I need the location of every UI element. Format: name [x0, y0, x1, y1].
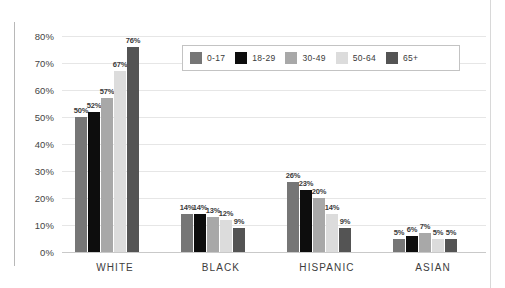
bar-asian-65+[interactable]	[445, 239, 457, 253]
bar-hispanic-30-49[interactable]	[313, 198, 325, 252]
bar-black-0-17[interactable]	[181, 214, 193, 252]
bar-slot: 67%	[114, 36, 126, 252]
bar-group-bars: 50%52%57%67%76%	[75, 36, 140, 252]
x-axis-label-white: WHITE	[62, 262, 168, 273]
bar-hispanic-50-64[interactable]	[326, 214, 338, 252]
y-axis-tick-label: 20%	[0, 193, 54, 204]
bar-value-label: 7%	[420, 222, 431, 231]
legend-label: 0-17	[207, 53, 225, 63]
bar-black-18-29[interactable]	[194, 214, 206, 252]
legend-swatch-icon	[235, 52, 247, 64]
x-axis-label-asian: ASIAN	[380, 262, 486, 273]
bar-slot: 57%	[101, 36, 113, 252]
bar-white-30-49[interactable]	[101, 98, 113, 252]
bar-white-18-29[interactable]	[88, 112, 100, 252]
bar-value-label: 67%	[113, 60, 128, 69]
bar-asian-0-17[interactable]	[393, 239, 405, 253]
bar-group-white: 50%52%57%67%76%	[75, 36, 139, 252]
bar-value-label: 20%	[312, 187, 327, 196]
bar-black-50-64[interactable]	[220, 220, 232, 252]
bar-value-label: 9%	[340, 217, 351, 226]
bar-white-50-64[interactable]	[114, 71, 126, 252]
bar-value-label: 76%	[126, 36, 141, 45]
bar-slot: 76%	[127, 36, 139, 252]
y-axis-tick-label: 40%	[0, 139, 54, 150]
legend-item-18-29[interactable]: 18-29	[235, 52, 275, 64]
legend-swatch-icon	[190, 52, 202, 64]
chart-right-border	[490, 0, 491, 288]
bar-hispanic-18-29[interactable]	[300, 190, 312, 252]
y-axis-tick-label: 30%	[0, 166, 54, 177]
legend-label: 65+	[403, 53, 418, 63]
y-axis-tick-label: 80%	[0, 31, 54, 42]
y-axis-tick-label: 0%	[0, 247, 54, 258]
bar-value-label: 5%	[394, 228, 405, 237]
legend-swatch-icon	[386, 52, 398, 64]
y-axis-tick-label: 60%	[0, 85, 54, 96]
legend-label: 30-49	[302, 53, 325, 63]
y-axis-tick-label: 70%	[0, 58, 54, 69]
bar-slot: 50%	[75, 36, 87, 252]
legend-swatch-icon	[336, 52, 348, 64]
legend-item-65+[interactable]: 65+	[386, 52, 418, 64]
bar-chart: 80%70%60%50%40%30%20%10%0% 50%52%57%67%7…	[0, 0, 505, 288]
legend-swatch-icon	[285, 52, 297, 64]
x-axis-label-hispanic: HISPANIC	[274, 262, 380, 273]
bar-white-65+[interactable]	[127, 47, 139, 252]
legend-item-0-17[interactable]: 0-17	[190, 52, 225, 64]
bar-asian-50-64[interactable]	[432, 239, 444, 253]
bar-slot: 52%	[88, 36, 100, 252]
bar-asian-30-49[interactable]	[419, 233, 431, 252]
legend-item-30-49[interactable]: 30-49	[285, 52, 325, 64]
bar-value-label: 5%	[433, 228, 444, 237]
legend-label: 18-29	[252, 53, 275, 63]
bar-black-65+[interactable]	[233, 228, 245, 252]
bar-hispanic-0-17[interactable]	[287, 182, 299, 252]
y-axis-tick-label: 50%	[0, 112, 54, 123]
bar-value-label: 57%	[100, 87, 115, 96]
bar-value-label: 52%	[87, 101, 102, 110]
chart-legend: 0-1718-2930-4950-6465+	[182, 45, 460, 71]
bar-value-label: 6%	[407, 225, 418, 234]
y-axis: 80%70%60%50%40%30%20%10%0%	[0, 36, 54, 252]
bar-white-0-17[interactable]	[75, 117, 87, 252]
bar-black-30-49[interactable]	[207, 217, 219, 252]
x-axis-label-black: BLACK	[168, 262, 274, 273]
y-axis-tick-label: 10%	[0, 220, 54, 231]
legend-item-50-64[interactable]: 50-64	[336, 52, 376, 64]
bar-value-label: 9%	[234, 217, 245, 226]
legend-label: 50-64	[353, 53, 376, 63]
bar-value-label: 12%	[219, 209, 234, 218]
bar-asian-18-29[interactable]	[406, 236, 418, 252]
bar-hispanic-65+[interactable]	[339, 228, 351, 252]
bar-value-label: 5%	[446, 228, 457, 237]
bar-value-label: 14%	[325, 203, 340, 212]
gridline	[62, 252, 486, 253]
